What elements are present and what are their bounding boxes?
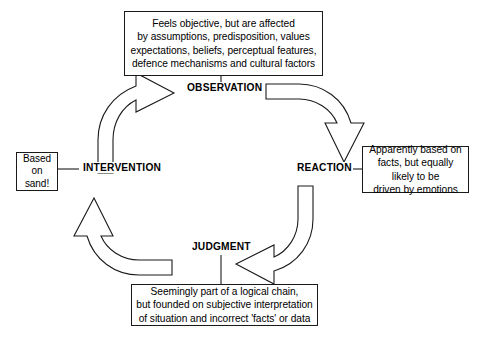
note-observation: Feels objective, but are affected by ass…: [124, 11, 323, 76]
arrow-observation-to-reaction: [266, 84, 364, 162]
node-label-judgment: JUDGMENT: [191, 241, 252, 252]
note-line: Based: [23, 153, 51, 165]
note-intervention: Based on sand!: [16, 152, 58, 191]
note-line: of situation and incorrect 'facts' or da…: [139, 312, 311, 325]
note-line: sand!: [25, 178, 49, 190]
note-line: facts, but equally: [378, 156, 454, 169]
diagram-canvas: Feels objective, but are affected by ass…: [0, 0, 485, 346]
note-line: Apparently based on: [369, 143, 462, 156]
note-line: defence mechanisms and cultural factors: [132, 57, 315, 70]
arrow-reaction-to-judgment: [236, 186, 313, 284]
note-line: driven by emotions: [373, 183, 458, 196]
note-line: on: [31, 165, 42, 177]
node-label-intervention: INTERVENTION: [82, 162, 162, 173]
note-line: expectations, beliefs, perceptual featur…: [131, 44, 317, 57]
note-reaction: Apparently based on facts, but equally l…: [362, 146, 469, 193]
note-line: likely to be: [392, 170, 440, 183]
node-label-reaction: REACTION: [296, 162, 353, 173]
note-line: by assumptions, predisposition, values: [137, 30, 310, 43]
note-line: Seemingly part of a logical chain,: [151, 285, 299, 298]
arrow-judgment-to-intervention: [74, 198, 172, 275]
arrow-intervention-to-observation: [98, 73, 174, 173]
note-judgment: Seemingly part of a logical chain, but f…: [131, 284, 318, 326]
note-line: but founded on subjective interpretation: [136, 298, 312, 311]
note-line: Feels objective, but are affected: [152, 17, 295, 30]
node-label-observation: OBSERVATION: [186, 82, 263, 93]
